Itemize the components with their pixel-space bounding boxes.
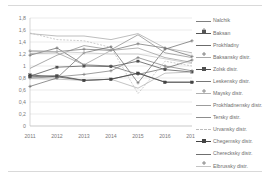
legend-item-label: Chegemsky distr. (213, 139, 253, 144)
series-line (30, 73, 192, 82)
legend-item-label: Zolsk distr. (213, 67, 238, 72)
legend-swatch-icon (196, 137, 211, 146)
data-point-marker (137, 60, 139, 62)
y-axis-tick-label: 0 (23, 123, 26, 129)
legend-item-label: Maysky distr. (213, 91, 243, 96)
legend-item[interactable]: Zolsk distr. (196, 63, 270, 75)
data-point-marker (29, 74, 31, 76)
plot-area: 00,20,40,60,811,21,41,61,820112012201320… (0, 10, 195, 160)
y-axis-tick-label: 1,6 (19, 27, 26, 33)
series-line (30, 73, 192, 82)
legend-swatch-icon (196, 101, 211, 110)
data-point-marker (191, 81, 193, 83)
legend-item[interactable]: Urvansky distr. (196, 124, 270, 136)
legend-item-label: Prokhladnensky distr. (213, 103, 262, 108)
legend-item[interactable]: Leskensky distr. (196, 75, 270, 87)
y-axis-tick-label: 1 (23, 63, 26, 69)
legend-item-label: Leskensky distr. (213, 79, 250, 84)
x-axis-tick-label: 2017 (186, 133, 195, 139)
legend-item-label: Baksansky distr. (213, 55, 250, 60)
legend-line-icon (196, 57, 211, 58)
data-point-marker (164, 68, 166, 70)
legend-plus-marker-icon (202, 79, 206, 83)
legend-item[interactable]: Baksansky distr. (196, 51, 270, 63)
legend-square-marker-icon (202, 30, 206, 34)
legend-item[interactable]: Prokhladny (196, 39, 270, 51)
data-point-marker (190, 58, 193, 61)
data-point-marker (136, 42, 139, 45)
y-axis-tick-label: 1,8 (19, 15, 26, 21)
x-axis-tick-label: 2016 (159, 133, 171, 139)
legend-plus-marker-icon (202, 18, 206, 22)
legend-swatch-icon (196, 41, 211, 50)
legend-swatch-icon (196, 113, 211, 122)
y-axis-tick-label: 1,4 (19, 39, 26, 45)
series-line (30, 61, 192, 76)
legend-plus-marker-icon (202, 151, 206, 155)
data-point-marker (82, 48, 85, 51)
y-axis-tick-label: 1,2 (19, 51, 26, 57)
legend-swatch-icon (196, 65, 211, 74)
legend-item[interactable]: Prokhladnensky distr. (196, 100, 270, 112)
line-chart: 00,20,40,60,811,21,41,61,820112012201320… (0, 0, 270, 178)
legend-square-marker-icon (202, 67, 206, 71)
x-axis-tick-label: 2013 (78, 133, 90, 139)
y-axis-tick-label: 0,6 (19, 87, 26, 93)
legend-item-label: Cherecksky distr. (213, 151, 253, 156)
y-axis-tick-label: 0,2 (19, 111, 26, 117)
data-point-marker (83, 79, 85, 81)
legend-swatch-icon (196, 53, 211, 62)
legend-swatch-icon (196, 89, 211, 98)
data-point-marker (28, 49, 31, 52)
x-axis-tick-label: 2015 (132, 133, 144, 139)
legend-item-label: Elbrussky distr. (213, 164, 248, 169)
legend-item[interactable]: Cherecksky distr. (196, 148, 270, 160)
data-point-marker (28, 85, 31, 88)
plot-svg: 00,20,40,60,811,21,41,61,820112012201320… (0, 10, 195, 160)
legend-swatch-icon (196, 162, 211, 171)
data-point-marker (109, 69, 112, 72)
legend-plus-marker-icon (202, 42, 206, 46)
legend-item-label: Nalchik (213, 18, 230, 23)
chart-top-border (8, 5, 262, 6)
legend-line-icon (196, 117, 211, 118)
legend-item-label: Urvansky distr. (213, 127, 247, 132)
legend-line-icon (196, 105, 211, 106)
legend-item[interactable]: Maysky distr. (196, 88, 270, 100)
y-axis-tick-label: 0,8 (19, 75, 26, 81)
x-axis-tick-label: 2012 (51, 133, 63, 139)
legend-swatch-icon (196, 29, 211, 38)
legend-line-icon (196, 166, 211, 167)
legend-swatch-icon (196, 17, 211, 26)
legend-item-label: Tersky distr. (213, 115, 240, 120)
data-point-marker (110, 78, 112, 80)
chart-legend: NalchikBaksanProkhladnyBaksansky distr.Z… (196, 15, 270, 172)
legend-item[interactable]: Tersky distr. (196, 112, 270, 124)
data-point-marker (164, 81, 166, 83)
legend-swatch-icon (196, 150, 211, 159)
data-point-marker (82, 73, 85, 76)
x-axis-tick-label: 2014 (105, 133, 117, 139)
legend-item-label: Prokhladny (213, 43, 239, 48)
legend-square-marker-icon (202, 139, 206, 143)
legend-item[interactable]: Nalchik (196, 15, 270, 27)
legend-swatch-icon (196, 125, 211, 134)
data-point-marker (110, 65, 112, 67)
legend-line-icon (196, 129, 211, 130)
legend-item[interactable]: Elbrussky distr. (196, 160, 270, 172)
data-point-marker (136, 56, 139, 59)
legend-line-icon (196, 93, 211, 94)
data-point-marker (137, 72, 139, 74)
legend-swatch-icon (196, 77, 211, 86)
legend-item[interactable]: Baksan (196, 27, 270, 39)
x-axis-tick-label: 2011 (24, 133, 35, 139)
data-point-marker (56, 66, 58, 68)
legend-item-label: Baksan (213, 31, 230, 36)
legend-item[interactable]: Chegemsky distr. (196, 136, 270, 148)
y-axis-tick-label: 0,4 (19, 99, 26, 105)
